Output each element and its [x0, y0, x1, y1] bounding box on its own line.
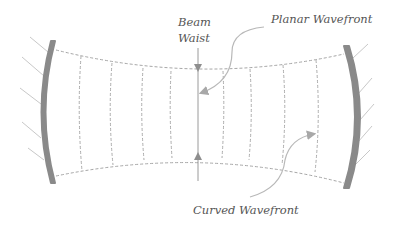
right-mirror — [344, 46, 360, 188]
curved-wavefront-label: Curved Wavefront — [193, 203, 299, 217]
resonator-diagram: Beam Waist Planar Wavefront Curved Wavef… — [0, 0, 394, 232]
beam-envelope — [56, 50, 344, 183]
beam-waist-label-line1: Beam — [177, 15, 211, 29]
left-mirror — [42, 41, 56, 183]
diagram-svg: Beam Waist Planar Wavefront Curved Wavef… — [0, 0, 394, 232]
waist-arrow-bottom-icon — [194, 152, 202, 160]
planar-callout-arrow — [201, 27, 264, 93]
beam-waist-label-line2: Waist — [178, 31, 210, 45]
waist-arrow-top-icon — [194, 64, 202, 72]
curved-callout-arrow — [250, 134, 314, 197]
planar-wavefront-label: Planar Wavefront — [270, 12, 373, 26]
